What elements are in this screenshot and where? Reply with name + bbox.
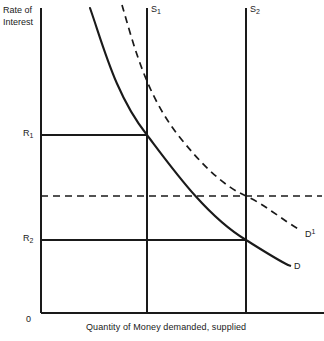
curve-label-d1: D1 <box>305 226 315 240</box>
supply-label-s2-sub: 2 <box>256 8 260 15</box>
curve-label-d1-sup: 1 <box>312 228 316 235</box>
supply-label-s2: S2 <box>250 4 260 17</box>
supply-label-s1: S1 <box>151 4 161 17</box>
y-axis-title-line1: Rate of <box>3 5 32 15</box>
supply-label-s1-sub: 1 <box>157 8 161 15</box>
x-axis-title: Quantity of Money demanded, supplied <box>86 322 246 333</box>
rate-label-r2-sub: 2 <box>30 237 34 244</box>
rate-label-r1: R1 <box>23 128 33 141</box>
demand-curve-d <box>90 8 288 265</box>
rate-label-r2: R2 <box>23 233 33 246</box>
y-axis-title-line2: Interest <box>3 17 33 27</box>
origin-label: 0 <box>26 314 31 325</box>
curve-label-d: D <box>294 261 301 272</box>
rate-label-r1-sub: 1 <box>30 132 34 139</box>
y-axis-title: Rate ofInterest <box>3 4 33 28</box>
d-label-leader <box>288 265 291 266</box>
chart-canvas <box>0 0 324 341</box>
money-market-chart: Rate ofInterest Quantity of Money demand… <box>0 0 324 341</box>
